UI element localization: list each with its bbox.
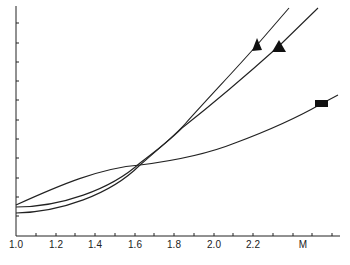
curves	[16, 8, 338, 213]
curve-triangle-1	[16, 8, 289, 213]
x-label-2.2: 2.2	[246, 239, 260, 250]
curve-triangle-2	[16, 8, 318, 207]
x-label-1.4: 1.4	[88, 239, 102, 250]
triangle-marker-1	[252, 38, 262, 51]
markers	[252, 38, 328, 107]
x-label-1.6: 1.6	[128, 239, 142, 250]
square-marker	[315, 100, 328, 107]
x-label-1.2: 1.2	[49, 239, 63, 250]
curve-square	[16, 95, 338, 205]
chart	[0, 0, 350, 265]
axes	[16, 6, 340, 236]
x-label-2.0: 2.0	[207, 239, 221, 250]
x-label-1.0: 1.0	[9, 239, 23, 250]
x-axis-title: M	[299, 239, 307, 250]
x-label-1.8: 1.8	[167, 239, 181, 250]
